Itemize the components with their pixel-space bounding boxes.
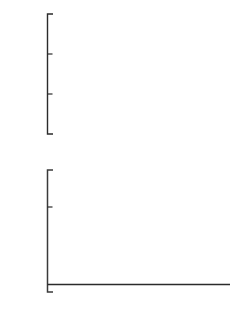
top-y-axis [48,14,54,134]
bottom-panel [48,170,231,292]
top-panel [48,14,54,134]
bottom-y-axis-bracket [48,170,54,292]
figure-container [0,0,250,321]
asthma-pef-figure [0,0,250,321]
